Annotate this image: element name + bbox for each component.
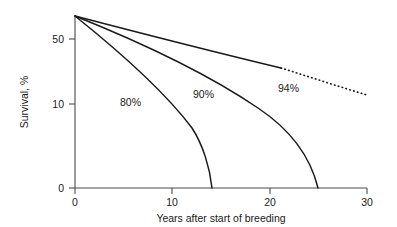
y-tick-label-50: 50 xyxy=(52,33,64,45)
series-label-80: 80% xyxy=(120,96,141,108)
y-axis-title: Survival, % xyxy=(18,76,30,129)
x-tick-label-20: 20 xyxy=(264,196,276,208)
survival-curve-figure: 50 10 0 0 10 20 30 Years after start of … xyxy=(0,0,397,227)
curve-80-percent xyxy=(75,16,212,188)
x-tick-label-10: 10 xyxy=(166,196,178,208)
x-tick-label-0: 0 xyxy=(72,196,78,208)
x-axis-title: Years after start of breeding xyxy=(156,212,285,224)
chart-canvas: 50 10 0 0 10 20 30 Years after start of … xyxy=(0,0,397,227)
y-tick-label-10: 10 xyxy=(52,98,64,110)
series-label-90: 90% xyxy=(193,88,214,100)
y-tick-label-0: 0 xyxy=(58,182,64,194)
curve-90-percent xyxy=(75,16,318,188)
x-tick-label-30: 30 xyxy=(361,196,373,208)
series-label-94: 94% xyxy=(278,82,299,94)
